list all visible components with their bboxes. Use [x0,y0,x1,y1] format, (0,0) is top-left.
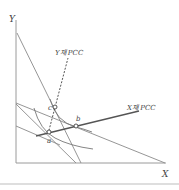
point-b-label: b [76,115,81,123]
x-pcc-label: X재 PCC [126,104,156,112]
point-b [74,124,78,128]
y-pcc-label: Y재 PCC [55,49,84,57]
point-a-label: a [47,137,51,145]
budget-line-flat [16,103,165,163]
point-c [53,105,57,109]
point-c-label: c [48,104,52,112]
x-axis-label: X [161,169,169,179]
y-axis-label: Y [9,14,16,24]
pcc-diagram: Y X Y재 PCC X재 PCC c b a [0,0,179,190]
point-a [47,130,51,134]
